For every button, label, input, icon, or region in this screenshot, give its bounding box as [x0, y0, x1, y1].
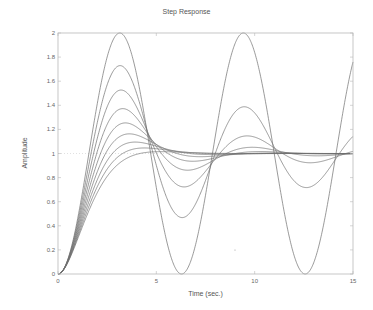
x-tick-label: 15: [350, 278, 357, 284]
y-tick-label: 0.4: [47, 223, 56, 229]
series-line: [58, 142, 353, 274]
x-tick-label: 5: [155, 278, 159, 284]
y-tick-label: 2: [52, 30, 56, 36]
y-tick-label: 1.2: [47, 126, 56, 132]
y-tick-label: 0: [52, 271, 56, 277]
y-tick-label: 1: [52, 151, 56, 157]
x-tick-label: 10: [251, 278, 258, 284]
y-tick-label: 1.4: [47, 102, 56, 108]
artifact-dot: [234, 249, 235, 250]
y-tick-label: 1.6: [47, 78, 56, 84]
y-tick-label: 1.8: [47, 54, 56, 60]
series-line: [58, 148, 353, 274]
series-line: [58, 152, 353, 274]
series-line: [58, 90, 353, 274]
y-tick-label: 0.6: [47, 199, 56, 205]
y-tick-label: 0.2: [47, 247, 56, 253]
series-line: [58, 123, 353, 274]
plot-area: 05101500.20.40.60.811.21.41.61.82: [0, 0, 373, 310]
series-line: [58, 109, 353, 274]
y-tick-label: 0.8: [47, 175, 56, 181]
x-tick-label: 0: [56, 278, 60, 284]
response-curves: [58, 33, 353, 274]
series-line: [58, 134, 353, 274]
